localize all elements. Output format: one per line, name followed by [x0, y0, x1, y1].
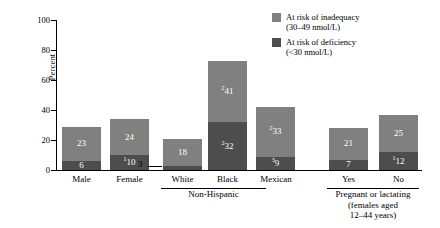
bar-pregnant-no-inadequacy-segment: 25 [379, 115, 418, 153]
bar-female-deficiency-value: 110 [110, 158, 149, 167]
bar-male-inadequacy-value: 23 [62, 139, 101, 148]
bar-mexican: 233 39 [256, 107, 295, 170]
bar-mexican-inadequacy-segment: 233 [256, 107, 295, 157]
y-axis-tick-100 [51, 20, 56, 21]
bar-mexican-deficiency-segment: 39 [256, 157, 295, 171]
group-label-pregnant-line1: Pregnant or lactating [336, 189, 411, 199]
bar-mexican-deficiency-number: 9 [275, 158, 280, 168]
bar-mexican-inadequacy-value: 233 [256, 127, 295, 136]
bar-female-deficiency-number: 10 [127, 157, 136, 167]
group-label-pregnant-line2: (females aged [348, 200, 398, 210]
white-deficiency-callout-leader-line [148, 166, 162, 167]
bar-female-inadequacy-segment: 24 [110, 119, 149, 155]
bar-black-inadequacy-segment: 241 [208, 61, 247, 123]
x-axis-baseline [56, 170, 422, 171]
y-axis-tick-20 [51, 140, 56, 141]
y-axis-tick-40 [51, 110, 56, 111]
bar-black-inadequacy-value: 241 [208, 87, 247, 96]
y-axis-label-20: 20 [24, 136, 50, 145]
legend-label-deficiency-line1: At risk of deficiency [286, 37, 356, 47]
y-axis-tick-60 [51, 80, 56, 81]
bar-pregnant-yes-deficiency-value: 7 [329, 160, 368, 169]
bar-male-deficiency-segment: 6 [62, 161, 101, 170]
bar-white-inadequacy-value: 18 [163, 148, 202, 157]
bar-female-inadequacy-value: 24 [110, 133, 149, 142]
y-axis-label-60: 60 [24, 76, 50, 85]
bar-female: 24 110 [110, 119, 149, 170]
bar-female-deficiency-segment: 110 [110, 155, 149, 170]
legend-label-deficiency: At risk of deficiency (<30 nmol/L) [286, 37, 356, 57]
legend-label-inadequacy: At risk of inadequacy (30–49 nmol/L) [286, 12, 359, 32]
legend-label-inadequacy-line2: (30–49 nmol/L) [286, 22, 359, 32]
y-axis-tick-80 [51, 50, 56, 51]
x-axis-label-white: White [163, 174, 202, 184]
bar-pregnant-yes-inadequacy-value: 21 [329, 139, 368, 148]
group-label-pregnant-line3: 12–44 years) [350, 210, 397, 220]
bar-pregnant-no: 25 112 [379, 115, 418, 171]
legend-item-deficiency: At risk of deficiency (<30 nmol/L) [272, 37, 438, 57]
y-axis-label-100: 100 [24, 16, 50, 25]
bar-male-deficiency-value: 6 [62, 161, 101, 170]
bar-male: 23 6 [62, 127, 101, 171]
legend-label-inadequacy-line1: At risk of inadequacy [286, 12, 359, 22]
bar-pregnant-no-deficiency-segment: 112 [379, 152, 418, 170]
bar-white-inadequacy-segment: 18 [163, 139, 202, 166]
legend-item-inadequacy: At risk of inadequacy (30–49 nmol/L) [272, 12, 438, 32]
bar-black-deficiency-number: 32 [225, 141, 234, 151]
bar-black-deficiency-value: 232 [208, 142, 247, 151]
bar-black: 241 232 [208, 61, 247, 171]
y-axis-label-80: 80 [24, 46, 50, 55]
legend-swatch-inadequacy-icon [272, 13, 281, 22]
y-axis-label-40: 40 [24, 106, 50, 115]
legend-swatch-deficiency-icon [272, 38, 281, 47]
bar-mexican-inadequacy-number: 33 [273, 126, 282, 136]
bar-pregnant-no-deficiency-number: 12 [396, 156, 405, 166]
y-axis-line [56, 20, 57, 171]
white-deficiency-callout-value: 3 [138, 160, 143, 169]
bar-white: 18 3 [163, 139, 202, 171]
group-label-non-hispanic: Non-Hispanic [161, 189, 266, 200]
x-axis-label-no: No [379, 174, 418, 184]
y-axis-label-0: 0 [24, 166, 50, 175]
bar-pregnant-no-inadequacy-value: 25 [379, 129, 418, 138]
bar-white-deficiency-segment: 3 [163, 166, 202, 171]
bar-pregnant-no-deficiency-value: 112 [379, 157, 418, 166]
x-axis-label-male: Male [62, 174, 101, 184]
bar-male-inadequacy-segment: 23 [62, 127, 101, 162]
vitamin-d-risk-stacked-bar-chart: Percent 100 80 60 40 20 0 23 6 24 110 18 [0, 0, 440, 228]
bar-mexican-deficiency-value: 39 [256, 159, 295, 168]
bar-pregnant-yes: 21 7 [329, 128, 368, 170]
group-label-pregnant-lactating: Pregnant or lactating (females aged 12–4… [316, 189, 430, 221]
chart-legend: At risk of inadequacy (30–49 nmol/L) At … [272, 12, 438, 62]
bar-pregnant-yes-inadequacy-segment: 21 [329, 128, 368, 160]
x-axis-label-mexican: Mexican [250, 174, 302, 184]
legend-label-deficiency-line2: (<30 nmol/L) [286, 47, 356, 57]
x-axis-label-black: Black [208, 174, 247, 184]
bar-pregnant-yes-deficiency-segment: 7 [329, 160, 368, 171]
x-axis-label-female: Female [110, 174, 149, 184]
bar-black-inadequacy-number: 41 [225, 86, 234, 96]
x-axis-label-yes: Yes [329, 174, 368, 184]
bar-black-deficiency-segment: 232 [208, 122, 247, 170]
